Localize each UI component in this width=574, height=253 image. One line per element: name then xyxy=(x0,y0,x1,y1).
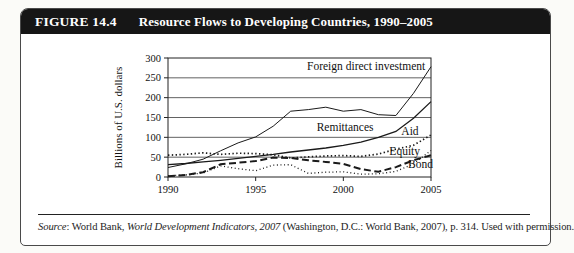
x-tick-label: 2000 xyxy=(333,184,354,195)
y-tick-label: 200 xyxy=(145,92,161,103)
y-tick-label: 300 xyxy=(145,53,161,64)
y-tick-label: 50 xyxy=(151,152,162,163)
x-tick-label: 1990 xyxy=(158,184,179,195)
y-tick-label: 250 xyxy=(145,72,161,83)
figure-number: FIGURE 14.4 xyxy=(35,14,117,30)
series-label-remittances: Remittances xyxy=(317,121,374,133)
source-line: Source: World Bank, World Development In… xyxy=(38,221,533,232)
source-note: Source: World Bank, World Development In… xyxy=(21,214,550,232)
figure-card: FIGURE 14.4 Resource Flows to Developing… xyxy=(20,8,551,246)
chart-area: 0501001502002503001990199520002005Foreig… xyxy=(21,34,550,204)
series-label-foreign-direct-investment: Foreign direct investment xyxy=(307,60,426,73)
source-divider xyxy=(38,214,530,215)
y-tick-label: 150 xyxy=(145,112,161,123)
series-label-equity: Equity xyxy=(389,145,420,158)
figure-title: Resource Flows to Developing Countries, … xyxy=(139,14,433,30)
series-label-bond: Bond xyxy=(408,158,433,170)
x-tick-label: 1995 xyxy=(245,184,266,195)
series-label-aid: Aid xyxy=(401,125,419,137)
source-word: Source xyxy=(38,221,66,232)
figure-title-bar: FIGURE 14.4 Resource Flows to Developing… xyxy=(21,9,550,34)
x-tick-label: 2005 xyxy=(421,184,442,195)
source-publication: World Development Indicators, 2007 xyxy=(127,221,280,232)
y-axis-title: Billions of U.S. dollars xyxy=(112,67,124,169)
source-rest: (Washington, D.C.: World Bank, 2007), p.… xyxy=(280,221,574,232)
flow-chart: 0501001502002503001990199520002005Foreig… xyxy=(21,34,550,204)
series-line-bond xyxy=(168,155,431,176)
y-tick-label: 100 xyxy=(145,132,161,143)
y-tick-label: 0 xyxy=(156,172,161,183)
source-sep: : World Bank, xyxy=(66,221,127,232)
